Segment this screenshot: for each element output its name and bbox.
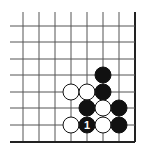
white-stone	[95, 117, 111, 133]
go-board: 1	[0, 0, 146, 156]
stones-layer: 1	[63, 67, 127, 133]
black-stone	[95, 67, 111, 83]
white-stone	[79, 84, 95, 100]
black-stone	[111, 117, 127, 133]
white-stone	[63, 117, 79, 133]
black-stone	[111, 100, 127, 116]
white-stone	[95, 100, 111, 116]
black-stone: 1	[79, 117, 95, 133]
move-number-label: 1	[84, 119, 90, 131]
black-stone	[95, 84, 111, 100]
white-stone	[63, 84, 79, 100]
black-stone	[79, 100, 95, 116]
